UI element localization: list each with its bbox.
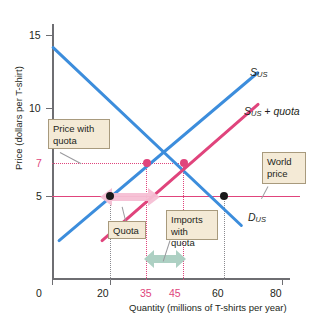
y-tick-10 (46, 108, 52, 109)
x-tick-0 (52, 280, 53, 285)
price-7-guideline (52, 163, 185, 164)
curve-label-dus: DUS (248, 212, 266, 224)
callout-quota-line1: Quota (113, 225, 141, 237)
x-tick-label-60: 60 (212, 288, 224, 299)
y-axis-title: Price (dollars per T-shirt) (14, 66, 24, 170)
curve-label-sus: SUS (250, 67, 267, 79)
y-tick-15 (46, 35, 52, 36)
curve-label-dus-main: D (248, 211, 256, 223)
callout-world-price-line2: price (267, 168, 301, 180)
x-tick-label-0: 0 (36, 288, 42, 299)
callout-quota: Quota (108, 221, 146, 239)
y-axis-line (52, 24, 54, 280)
callout-imports-line1: Imports (171, 214, 213, 226)
x-tick-20 (110, 280, 111, 285)
x-tick-label-35: 35 (140, 288, 152, 299)
y-tick-label-10: 10 (29, 103, 41, 114)
y-tick-label-15: 15 (29, 30, 41, 41)
marker-quantity-demanded-with-quota (180, 159, 188, 167)
curve-label-sus-plus-quota: SUS + quota (244, 106, 300, 118)
x-axis-title: Quantity (millions of T-shirts per year) (129, 303, 287, 313)
callout-price-with-quota-line2: quota (53, 135, 105, 147)
y-tick-label-7: 7 (36, 158, 42, 169)
callout-world-price-line1: World (267, 156, 301, 168)
callout-world-price: World price (262, 152, 306, 184)
curve-label-sus-sub: US (257, 70, 267, 79)
x-tick-80 (282, 280, 283, 285)
callout-price-with-quota: Price with quota (48, 119, 110, 149)
x-tick-label-80: 80 (270, 288, 282, 299)
marker-us-supply-world-price (106, 192, 114, 200)
curve-label-susq-suffix: + quota (261, 105, 299, 117)
marker-us-supply-with-quota (143, 159, 151, 167)
callout-imports-with-quota: Imports with quota (166, 210, 218, 240)
world-price-leader (261, 186, 268, 199)
curve-label-dus-sub: US (256, 215, 266, 224)
marker-us-demand-world-price (220, 192, 228, 200)
x-tick-label-20: 20 (97, 288, 109, 299)
tariff-quota-chart: 15 10 7 5 0 20 35 45 60 80 Price (dollar… (0, 0, 312, 315)
curve-label-susq-sub: US (251, 109, 261, 118)
curve-label-sus-main: S (250, 66, 257, 78)
x-tick-label-45: 45 (169, 288, 181, 299)
x-axis-line (52, 278, 290, 280)
callout-imports-line2: with quota (171, 226, 213, 249)
callout-price-with-quota-line1: Price with (53, 123, 105, 135)
y-tick-label-5: 5 (36, 191, 42, 202)
curve-label-susq-main: S (244, 105, 251, 117)
